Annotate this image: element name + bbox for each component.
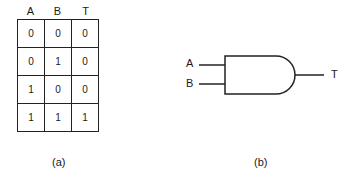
and-gate-icon: [0, 0, 347, 178]
caption-b: (b): [254, 156, 267, 168]
input-label-a: A: [186, 57, 193, 69]
output-label-t: T: [331, 68, 338, 80]
input-label-b: B: [186, 77, 193, 89]
